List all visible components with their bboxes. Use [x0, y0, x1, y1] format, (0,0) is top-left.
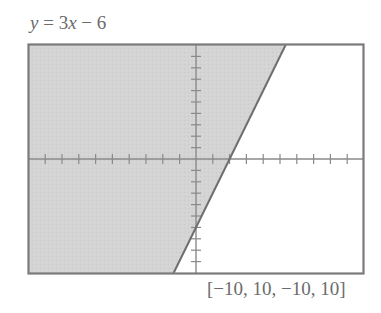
window-range-label: [−10, 10, −10, 10] [207, 278, 346, 300]
graph-plot [0, 0, 381, 313]
